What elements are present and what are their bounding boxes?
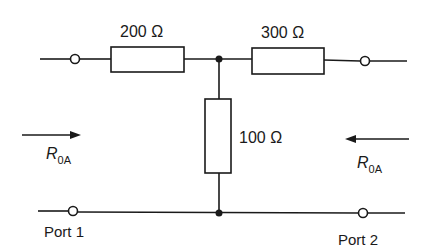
resistor-300-label: 300 Ω bbox=[261, 25, 304, 41]
port2-label: Port 2 bbox=[338, 232, 378, 247]
top-junction-dot bbox=[216, 56, 223, 63]
port2-top-terminal bbox=[361, 57, 370, 66]
left-arrowhead-icon bbox=[345, 135, 356, 143]
port1-top-terminal bbox=[71, 55, 80, 64]
left-r-subscript: 0A bbox=[58, 154, 71, 166]
port1-bottom-terminal bbox=[69, 207, 78, 216]
top-wire-r2-to-port2 bbox=[324, 60, 360, 61]
resistor-100-label: 100 Ω bbox=[239, 130, 282, 146]
left-r-symbol: R bbox=[46, 145, 58, 162]
right-arrowhead-icon bbox=[70, 131, 81, 139]
right-r-subscript: 0A bbox=[369, 163, 382, 175]
bottom-junction-dot bbox=[216, 210, 223, 217]
right-r-symbol: R bbox=[357, 154, 369, 171]
resistor-300-ohm bbox=[252, 48, 324, 74]
resistor-200-label: 200 Ω bbox=[120, 24, 163, 40]
resistor-100-ohm bbox=[205, 99, 231, 173]
left-r0a-label: R0A bbox=[46, 146, 71, 162]
port1-label: Port 1 bbox=[44, 224, 84, 239]
port2-bottom-terminal bbox=[359, 209, 368, 218]
right-r0a-label: R0A bbox=[357, 155, 382, 171]
resistor-200-ohm bbox=[111, 47, 184, 72]
t-network-circuit bbox=[0, 0, 432, 250]
